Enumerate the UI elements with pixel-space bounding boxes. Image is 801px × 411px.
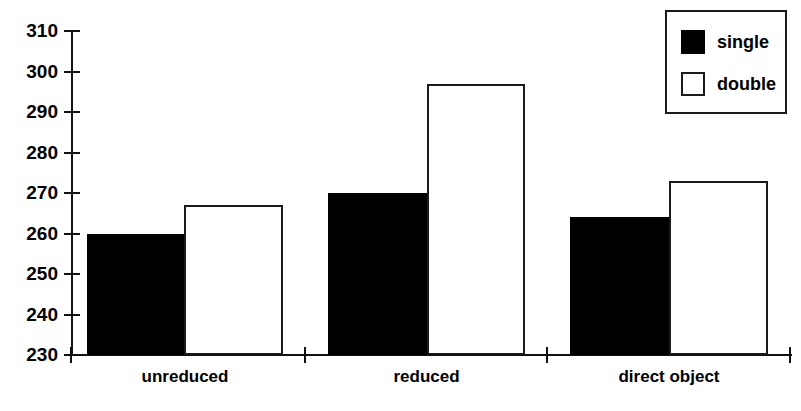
x-axis-tick bbox=[546, 347, 548, 363]
y-axis-tick bbox=[64, 152, 80, 154]
y-axis-tick-label: 300 bbox=[0, 62, 58, 81]
bar-double-direct-object bbox=[669, 181, 768, 355]
y-axis-tick-label: 240 bbox=[0, 305, 58, 324]
y-axis-tick-label-wrap: 310 bbox=[0, 21, 58, 41]
y-axis-tick-label: 230 bbox=[0, 345, 58, 364]
filled-square-icon bbox=[681, 30, 705, 54]
bar-single-unreduced bbox=[87, 234, 184, 356]
y-axis-tick bbox=[64, 273, 80, 275]
y-axis-tick-label: 260 bbox=[0, 224, 58, 243]
y-axis-tick-label: 290 bbox=[0, 102, 58, 121]
x-axis-tick bbox=[70, 347, 72, 363]
y-axis-tick-label: 270 bbox=[0, 183, 58, 202]
y-axis-tick-label-wrap: 280 bbox=[0, 143, 58, 163]
legend-label-double: double bbox=[717, 75, 776, 93]
y-axis-tick-label: 310 bbox=[0, 21, 58, 40]
x-axis-tick bbox=[304, 347, 306, 363]
y-axis-tick bbox=[64, 192, 80, 194]
x-axis-tick bbox=[789, 347, 791, 363]
legend: single double bbox=[665, 10, 787, 114]
x-axis-label-reduced: reduced bbox=[307, 368, 547, 385]
y-axis-tick-label-wrap: 250 bbox=[0, 264, 58, 284]
bar-chart: 230240250260270280290300310 unreducedred… bbox=[0, 0, 801, 411]
y-axis-tick-label-wrap: 240 bbox=[0, 305, 58, 325]
y-axis-tick-label-wrap: 260 bbox=[0, 224, 58, 244]
bar-double-reduced bbox=[427, 84, 525, 355]
bar-single-direct-object bbox=[570, 217, 669, 355]
legend-label-single: single bbox=[717, 33, 769, 51]
y-axis-tick-label: 250 bbox=[0, 264, 58, 283]
y-axis-tick bbox=[64, 233, 80, 235]
y-axis-tick-label-wrap: 290 bbox=[0, 102, 58, 122]
y-axis-tick bbox=[64, 30, 80, 32]
y-axis-tick-label-wrap: 230 bbox=[0, 345, 58, 365]
y-axis-tick bbox=[64, 71, 80, 73]
y-axis-tick-label-wrap: 270 bbox=[0, 183, 58, 203]
y-axis-tick-label-wrap: 300 bbox=[0, 62, 58, 82]
y-axis-tick bbox=[64, 111, 80, 113]
bar-double-unreduced bbox=[184, 205, 283, 355]
bar-single-reduced bbox=[328, 193, 427, 355]
x-axis-label-unreduced: unreduced bbox=[65, 368, 305, 385]
legend-entry-single: single bbox=[681, 30, 769, 54]
hollow-square-icon bbox=[681, 72, 705, 96]
y-axis-tick-label: 280 bbox=[0, 143, 58, 162]
legend-entry-double: double bbox=[681, 72, 776, 96]
x-axis-label-direct-object: direct object bbox=[549, 368, 789, 385]
y-axis-tick bbox=[64, 314, 80, 316]
